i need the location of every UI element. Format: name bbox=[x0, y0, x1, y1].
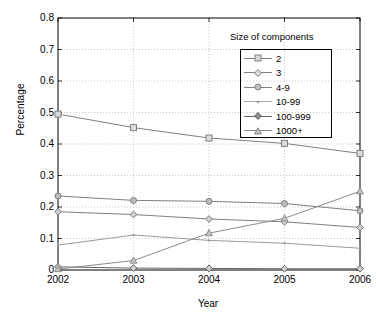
legend-label: 2 bbox=[276, 53, 281, 64]
legend-item-2[interactable]: 2 bbox=[241, 51, 333, 65]
legend-item-4-9[interactable]: 4-9 bbox=[241, 80, 333, 94]
series-100-999 bbox=[55, 263, 364, 272]
legend-marker-diamond-filled-icon bbox=[244, 109, 272, 123]
legend-label: 1000+ bbox=[276, 125, 303, 136]
legend-item-1000plus[interactable]: 1000+ bbox=[241, 124, 333, 138]
legend-label: 100-999 bbox=[276, 111, 311, 122]
legend-marker-dot-icon bbox=[244, 95, 272, 109]
series-3 bbox=[55, 208, 364, 231]
legend-label: 10-99 bbox=[276, 96, 300, 107]
legend-marker-diamond-icon bbox=[244, 66, 272, 80]
legend-item-3[interactable]: 3 bbox=[241, 66, 333, 80]
legend-box: 2 3 4-9 10-99 bbox=[240, 49, 332, 138]
chart-figure: Percentage 0 0.1 0.2 0.3 0.4 0.5 0.6 0.7… bbox=[0, 0, 376, 324]
legend-marker-triangle-icon bbox=[244, 124, 272, 138]
legend-marker-square-icon bbox=[244, 51, 272, 65]
legend-item-10-99[interactable]: 10-99 bbox=[241, 95, 333, 109]
legend-title: Size of components bbox=[230, 31, 313, 42]
legend-label: 3 bbox=[276, 67, 281, 78]
legend-item-100-999[interactable]: 100-999 bbox=[241, 109, 333, 123]
legend-marker-circle-icon bbox=[244, 80, 272, 94]
legend-label: 4-9 bbox=[276, 82, 290, 93]
